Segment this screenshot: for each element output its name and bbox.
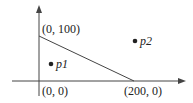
label-right-vertex: (200, 0) [124, 85, 162, 97]
y-axis-arrow-icon [36, 5, 42, 13]
constraint-line [39, 36, 134, 81]
label-p2: p2 [140, 35, 152, 47]
point-p1 [49, 62, 54, 67]
label-top-vertex: (0, 100) [42, 23, 80, 35]
label-origin: (0, 0) [42, 85, 68, 97]
point-p2 [133, 39, 138, 44]
diagram: (0, 100) (0, 0) (200, 0) p1 p2 [0, 0, 193, 103]
diagram-canvas [0, 0, 193, 103]
x-axis-arrow-icon [178, 78, 186, 84]
label-p1: p1 [56, 58, 68, 70]
